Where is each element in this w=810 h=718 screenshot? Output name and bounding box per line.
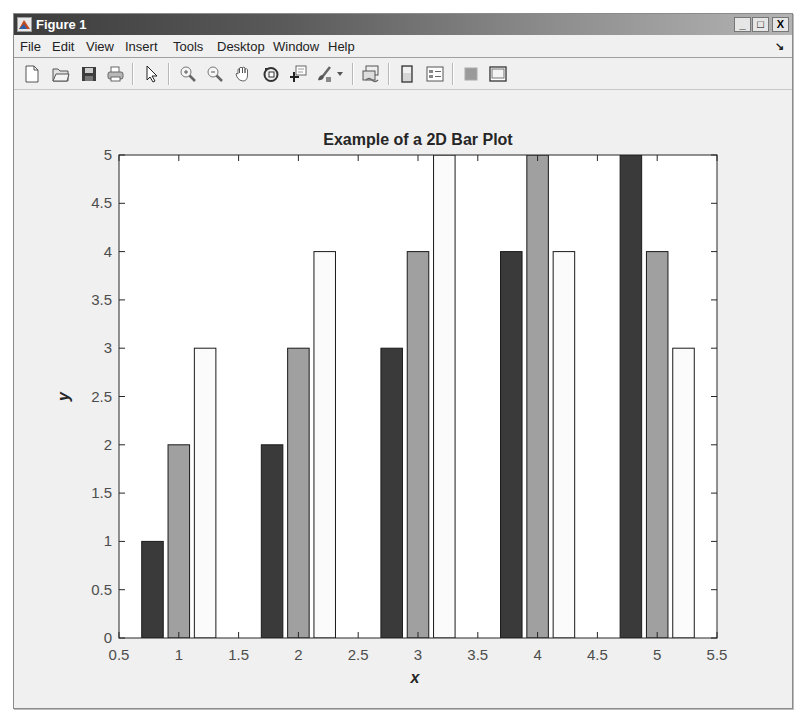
y-tick-label: 2.5 (91, 388, 112, 405)
menu-desktop[interactable]: Desktop (217, 39, 265, 54)
brush-button[interactable] (313, 63, 335, 85)
pointer-arrow-icon (145, 65, 159, 83)
rotate-3d-button[interactable] (260, 63, 282, 85)
save-icon (81, 66, 97, 82)
save-button[interactable] (78, 63, 100, 85)
y-tick-label: 1 (104, 532, 112, 549)
edit-plot-button[interactable] (141, 63, 163, 85)
y-tick-label: 3 (104, 339, 112, 356)
colorbar-icon (400, 65, 414, 83)
insert-colorbar-button[interactable] (396, 63, 418, 85)
bar[interactable] (434, 155, 456, 638)
toolbar-separator (352, 63, 354, 85)
print-icon (107, 66, 125, 82)
window-title: Figure 1 (36, 17, 87, 32)
bar[interactable] (646, 252, 668, 638)
bar[interactable] (527, 155, 549, 638)
rotate-3d-icon (262, 65, 280, 83)
y-tick-label: 1.5 (91, 484, 112, 501)
menu-tools[interactable]: Tools (173, 39, 203, 54)
matlab-logo-icon (17, 17, 32, 32)
x-tick-label: 5 (653, 646, 661, 663)
x-tick-label: 1.5 (228, 646, 249, 663)
title-bar[interactable]: Figure 1 _ □ X (14, 14, 792, 35)
maximize-button[interactable]: □ (752, 17, 769, 32)
data-cursor-icon (289, 65, 307, 83)
dock-arrow-icon[interactable]: ↘ (775, 40, 784, 53)
x-tick-label: 4 (533, 646, 541, 663)
y-tick-label: 3.5 (91, 291, 112, 308)
menu-view[interactable]: View (86, 39, 114, 54)
y-tick-label: 2 (104, 436, 112, 453)
x-tick-label: 5.5 (707, 646, 728, 663)
bar[interactable] (407, 252, 429, 638)
pan-button[interactable] (232, 63, 254, 85)
bar[interactable] (620, 155, 642, 638)
zoom-in-button[interactable] (177, 63, 199, 85)
bar[interactable] (673, 348, 695, 638)
link-plot-icon (362, 65, 380, 83)
open-folder-icon (52, 66, 70, 82)
new-file-icon (24, 65, 40, 83)
minimize-button[interactable]: _ (734, 17, 751, 32)
bar[interactable] (381, 348, 403, 638)
insert-legend-button[interactable] (424, 63, 446, 85)
y-tick-label: 0 (104, 629, 112, 646)
open-file-button[interactable] (50, 63, 72, 85)
zoom-in-icon (179, 65, 197, 83)
brush-icon (315, 65, 333, 83)
x-tick-label: 0.5 (109, 646, 130, 663)
bar[interactable] (314, 252, 336, 638)
y-tick-label: 4.5 (91, 194, 112, 211)
dropdown-arrow-icon (336, 71, 344, 77)
y-tick-label: 4 (104, 243, 112, 260)
figure-window: Figure 1 _ □ X File Edit View Insert Too… (13, 13, 793, 709)
bar[interactable] (288, 348, 310, 638)
menu-window[interactable]: Window (273, 39, 319, 54)
toolbar-separator (452, 63, 454, 85)
menu-help[interactable]: Help (328, 39, 355, 54)
y-axis-label: y (55, 391, 72, 402)
menu-edit[interactable]: Edit (52, 39, 74, 54)
toolbar-separator (168, 63, 170, 85)
bar[interactable] (168, 445, 190, 638)
bar-chart[interactable]: 0.511.522.533.544.555.500.511.522.533.54… (14, 90, 792, 708)
chart-title: Example of a 2D Bar Plot (323, 131, 513, 148)
toolbar-separator (388, 63, 390, 85)
figure-toolbar (14, 58, 792, 90)
y-tick-label: 0.5 (91, 581, 112, 598)
menu-file[interactable]: File (20, 39, 41, 54)
bar[interactable] (142, 541, 164, 638)
x-tick-label: 3 (414, 646, 422, 663)
x-tick-label: 1 (175, 646, 183, 663)
print-button[interactable] (105, 63, 127, 85)
show-plot-tools-button[interactable] (487, 63, 509, 85)
hide-plot-tools-icon (464, 67, 478, 81)
hand-pan-icon (234, 65, 252, 83)
bar[interactable] (553, 252, 575, 638)
x-tick-label: 4.5 (587, 646, 608, 663)
link-plot-button[interactable] (360, 63, 382, 85)
bar[interactable] (194, 348, 216, 638)
x-tick-label: 3.5 (467, 646, 488, 663)
menu-insert[interactable]: Insert (125, 39, 158, 54)
hide-plot-tools-button[interactable] (460, 63, 482, 85)
show-plot-tools-icon (489, 66, 507, 82)
figure-canvas: 0.511.522.533.544.555.500.511.522.533.54… (14, 90, 792, 708)
bar[interactable] (261, 445, 283, 638)
x-axis-label: x (410, 669, 421, 686)
zoom-out-icon (206, 65, 224, 83)
menu-bar: File Edit View Insert Tools Desktop Wind… (14, 36, 792, 58)
new-figure-button[interactable] (21, 63, 43, 85)
bar[interactable] (501, 252, 523, 638)
data-cursor-button[interactable] (287, 63, 309, 85)
y-tick-label: 5 (104, 146, 112, 163)
zoom-out-button[interactable] (204, 63, 226, 85)
x-tick-label: 2.5 (348, 646, 369, 663)
toolbar-separator (132, 63, 134, 85)
x-tick-label: 2 (294, 646, 302, 663)
close-button[interactable]: X (772, 17, 789, 32)
brush-dropdown-button[interactable] (334, 63, 346, 85)
legend-icon (426, 66, 444, 82)
